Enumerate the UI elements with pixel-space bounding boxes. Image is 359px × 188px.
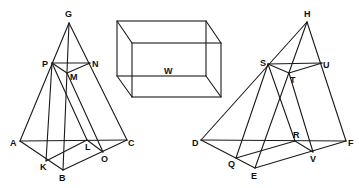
box-w [117, 21, 221, 97]
label-v: V [310, 154, 316, 164]
label-h: H [304, 9, 311, 19]
geometry-figure: G P N M A C L O K B W H S U T D F R V Q … [0, 0, 359, 188]
label-k: K [40, 162, 47, 172]
label-d: D [192, 138, 199, 148]
left-pyramid [20, 23, 127, 170]
label-f: F [348, 138, 354, 148]
label-t: T [290, 75, 296, 85]
label-q: Q [228, 159, 235, 169]
label-w: W [164, 66, 173, 76]
right-pyramid [201, 22, 346, 168]
label-c: C [128, 138, 135, 148]
label-l: L [85, 142, 91, 152]
label-r: R [293, 130, 300, 140]
label-a: A [10, 138, 17, 148]
label-s: S [260, 58, 266, 68]
label-u: U [323, 60, 330, 70]
label-e: E [251, 171, 257, 181]
label-p: P [42, 59, 48, 69]
label-o: O [101, 154, 108, 164]
label-n: N [92, 59, 99, 69]
label-m: M [70, 72, 78, 82]
label-b: B [59, 173, 66, 183]
label-g: G [65, 9, 72, 19]
